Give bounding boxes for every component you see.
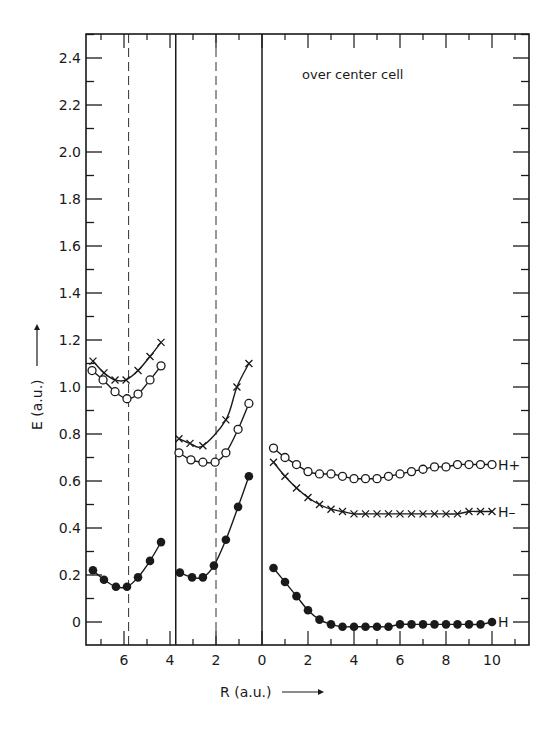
filled-circle-marker-icon: [373, 622, 382, 631]
filled-circle-marker-icon: [157, 538, 166, 547]
open-circle-marker-icon: [281, 454, 289, 462]
series-label: H: [498, 614, 509, 630]
series-h-right: H: [269, 564, 508, 631]
energy-vs-distance-chart: 00.20.40.60.81.01.21.41.61.82.02.22.4 64…: [0, 0, 553, 733]
filled-circle-marker-icon: [146, 557, 155, 566]
x-tick-label: 6: [396, 652, 405, 668]
open-circle-marker-icon: [339, 472, 347, 480]
series-label: H–: [498, 504, 516, 520]
plot-frame: [86, 34, 529, 645]
open-circle-marker-icon: [211, 458, 219, 466]
x-tick-label: 10: [483, 652, 501, 668]
filled-circle-marker-icon: [188, 573, 197, 582]
filled-circle-marker-icon: [465, 620, 474, 629]
series-h-left: [89, 538, 166, 591]
x-marker-icon: [305, 494, 312, 501]
open-circle-marker-icon: [373, 475, 381, 483]
y-axis-title: E (a.u.): [29, 324, 45, 430]
open-circle-marker-icon: [88, 367, 96, 375]
filled-circle-marker-icon: [176, 568, 185, 577]
y-tick-label: 0.2: [59, 567, 81, 583]
filled-circle-marker-icon: [384, 622, 393, 631]
open-circle-marker-icon: [111, 388, 119, 396]
x-marker-icon: [233, 384, 240, 391]
open-circle-marker-icon: [304, 468, 312, 476]
filled-circle-marker-icon: [419, 620, 428, 629]
open-circle-marker-icon: [465, 461, 473, 469]
filled-circle-marker-icon: [396, 620, 405, 629]
filled-circle-marker-icon: [245, 472, 254, 481]
x-axis: 6420246810: [101, 34, 515, 668]
y-tick-label: 1.8: [59, 191, 81, 207]
y-tick-label: 1.6: [59, 238, 81, 254]
series-line: [274, 568, 493, 627]
x-axis-title: R (a.u.): [220, 684, 324, 700]
filled-circle-marker-icon: [100, 575, 109, 584]
x-marker-icon: [270, 459, 277, 466]
y-tick-label: 0.8: [59, 426, 81, 442]
arrowhead-up-icon: [34, 324, 40, 330]
x-marker-icon: [245, 360, 252, 367]
y-axis: 00.20.40.60.81.01.21.41.61.82.02.22.4: [59, 35, 529, 631]
open-circle-marker-icon: [442, 463, 450, 471]
svg-text:E (a.u.): E (a.u.): [29, 379, 45, 430]
y-tick-label: 1.4: [59, 285, 81, 301]
open-circle-marker-icon: [270, 444, 278, 452]
open-circle-marker-icon: [99, 376, 107, 384]
annotation-over-center-cell: over center cell: [302, 67, 403, 82]
filled-circle-marker-icon: [488, 618, 497, 627]
x-marker-icon: [282, 473, 289, 480]
filled-circle-marker-icon: [476, 620, 485, 629]
open-circle-marker-icon: [293, 461, 301, 469]
y-tick-label: 2.2: [59, 97, 81, 113]
open-circle-marker-icon: [396, 470, 404, 478]
x-marker-icon: [158, 339, 165, 346]
series-hplus-middle: [175, 399, 253, 466]
y-tick-label: 0.6: [59, 473, 81, 489]
series-line: [93, 342, 161, 381]
filled-circle-marker-icon: [361, 622, 370, 631]
x-marker-icon: [100, 369, 107, 376]
x-tick-label: 4: [350, 652, 359, 668]
plot-border: [86, 34, 529, 645]
open-circle-marker-icon: [419, 465, 427, 473]
open-circle-marker-icon: [316, 470, 324, 478]
x-marker-icon: [146, 353, 153, 360]
series-line: [179, 364, 249, 448]
y-tick-label: 2.0: [59, 144, 81, 160]
filled-circle-marker-icon: [123, 582, 132, 591]
x-marker-icon: [187, 440, 194, 447]
x-marker-icon: [222, 416, 229, 423]
filled-circle-marker-icon: [453, 620, 462, 629]
open-circle-marker-icon: [477, 461, 485, 469]
filled-circle-marker-icon: [112, 582, 121, 591]
open-circle-marker-icon: [350, 475, 358, 483]
y-tick-label: 0: [72, 614, 81, 630]
filled-circle-marker-icon: [292, 592, 301, 601]
open-circle-marker-icon: [123, 395, 131, 403]
x-marker-icon: [316, 501, 323, 508]
arrowhead-right-icon: [318, 689, 324, 695]
x-tick-label: 2: [304, 652, 313, 668]
filled-circle-marker-icon: [281, 578, 290, 587]
open-circle-marker-icon: [362, 475, 370, 483]
filled-circle-marker-icon: [269, 564, 278, 573]
open-circle-marker-icon: [234, 425, 242, 433]
series-hplus-right: H+: [270, 444, 521, 483]
y-tick-label: 1.2: [59, 332, 81, 348]
x-marker-icon: [199, 442, 206, 449]
filled-circle-marker-icon: [199, 573, 208, 582]
open-circle-marker-icon: [199, 458, 207, 466]
open-circle-marker-icon: [245, 399, 253, 407]
filled-circle-marker-icon: [338, 622, 347, 631]
open-circle-marker-icon: [454, 461, 462, 469]
series-h-middle: [176, 472, 254, 582]
y-tick-label: 0.4: [59, 520, 81, 536]
filled-circle-marker-icon: [304, 606, 313, 615]
open-circle-marker-icon: [134, 390, 142, 398]
x-marker-icon: [123, 376, 130, 383]
data-series: H+H–H: [88, 339, 520, 631]
filled-circle-marker-icon: [222, 535, 231, 544]
open-circle-marker-icon: [187, 456, 195, 464]
filled-circle-marker-icon: [210, 561, 219, 570]
